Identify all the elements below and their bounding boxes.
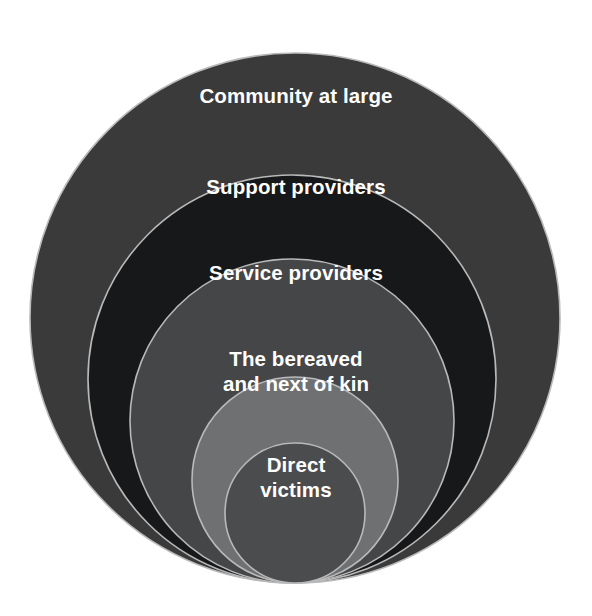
diagram-canvas [0, 0, 592, 616]
circle-direct-victims[interactable] [225, 443, 365, 583]
concentric-circles-diagram: Community at large Support providers Ser… [0, 0, 592, 616]
